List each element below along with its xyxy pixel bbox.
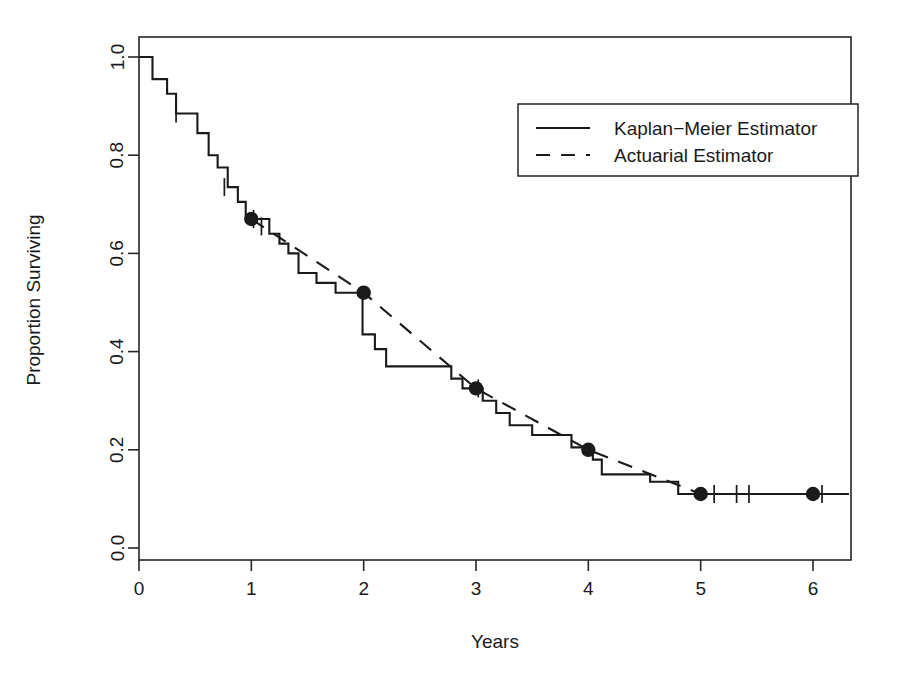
- y-tick-label: 1.0: [107, 44, 128, 70]
- x-tick-label: 4: [583, 578, 594, 599]
- actuarial-point-marker: [693, 487, 707, 501]
- actuarial-point-marker: [581, 443, 595, 457]
- chart-legend: Kaplan−Meier EstimatorActuarial Estimato…: [518, 104, 858, 176]
- y-tick-label: 0.8: [107, 142, 128, 168]
- legend-label-1: Kaplan−Meier Estimator: [614, 118, 818, 139]
- x-tick-label: 5: [695, 578, 706, 599]
- y-tick-label: 0.4: [107, 338, 128, 365]
- kaplan-meier-plot: 0123456 0.00.20.40.60.81.0 Years Proport…: [0, 0, 898, 694]
- y-tick-label: 0.2: [107, 437, 128, 463]
- actuarial-point-marker: [806, 487, 820, 501]
- x-tick-label: 1: [246, 578, 257, 599]
- x-axis-label: Years: [471, 631, 519, 652]
- actuarial-point-marker: [356, 285, 370, 299]
- y-tick-label: 0.6: [107, 240, 128, 266]
- x-tick-label: 2: [358, 578, 369, 599]
- y-axis-label: Proportion Surviving: [23, 214, 44, 385]
- x-tick-label: 0: [134, 578, 145, 599]
- x-tick-label: 3: [471, 578, 482, 599]
- y-tick-label: 0.0: [107, 535, 128, 561]
- x-tick-label: 6: [808, 578, 819, 599]
- survival-curve-figure: 0123456 0.00.20.40.60.81.0 Years Proport…: [0, 0, 898, 694]
- actuarial-point-marker: [469, 381, 483, 395]
- actuarial-point-marker: [244, 212, 258, 226]
- legend-label-2: Actuarial Estimator: [614, 145, 774, 166]
